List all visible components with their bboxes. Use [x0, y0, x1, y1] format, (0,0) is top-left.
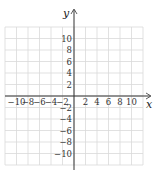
y-tick-label: −6 [59, 126, 72, 136]
x-tick-label: 8 [117, 97, 122, 107]
y-tick-label: −8 [59, 137, 72, 147]
x-tick-label: 10 [126, 97, 137, 107]
x-axis-label: x [146, 98, 153, 111]
y-tick-label: 6 [67, 57, 72, 67]
y-tick-label: −10 [54, 149, 72, 159]
y-tick-label: 2 [67, 80, 72, 90]
y-axis-label: y [62, 7, 70, 20]
x-tick-label: 6 [106, 97, 111, 107]
y-tick-label: 4 [67, 68, 72, 78]
coordinate-plane: x y −10−8−6−4−2246810 108642−2−4−6−8−10 [0, 0, 158, 177]
x-tick-labels: −10−8−6−4−2246810 [8, 97, 137, 107]
y-tick-label: −4 [59, 114, 72, 124]
y-tick-label: 8 [67, 45, 72, 55]
x-tick-label: 2 [83, 97, 88, 107]
y-tick-label: 10 [61, 34, 72, 44]
y-tick-label: −2 [59, 103, 72, 113]
x-tick-label: 4 [94, 97, 99, 107]
